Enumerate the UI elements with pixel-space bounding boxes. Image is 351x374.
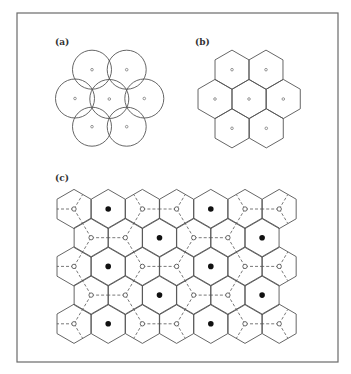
base-station-dot — [91, 125, 94, 128]
open-site-circle — [140, 322, 144, 326]
open-site-circle — [89, 236, 93, 240]
base-station-dot — [214, 98, 217, 101]
filled-site-dot — [105, 264, 111, 270]
filled-site-dot — [208, 264, 214, 270]
panel-label-a: (a) — [55, 37, 69, 47]
open-site-circle — [72, 264, 76, 268]
panel-a-overlapping-circles: (a) — [55, 37, 164, 146]
base-station-dot — [265, 127, 268, 130]
hexagon-cells — [198, 50, 300, 148]
base-station-dot — [248, 98, 251, 101]
open-site-circle — [140, 264, 144, 268]
open-site-circle — [72, 207, 76, 211]
open-site-circle — [226, 293, 230, 297]
open-site-circle — [277, 264, 281, 268]
filled-site-dot — [157, 292, 163, 298]
filled-site-dot — [208, 206, 214, 212]
open-site-circle — [174, 322, 178, 326]
open-site-circle — [123, 236, 127, 240]
figure-canvas: (a) (b) (c) — [0, 0, 351, 374]
open-site-circle — [277, 322, 281, 326]
panel-c-cell-reuse-pattern: (c) — [55, 173, 296, 343]
panel-label-b: (b) — [195, 37, 210, 47]
filled-site-dot — [157, 235, 163, 241]
panel-label-c: (c) — [55, 173, 69, 183]
base-station-dot — [108, 98, 111, 101]
open-site-circle — [123, 293, 127, 297]
base-station-dot — [125, 125, 128, 128]
base-station-dot — [231, 127, 234, 130]
base-station-dot — [231, 68, 234, 71]
open-site-circle — [243, 207, 247, 211]
panel-b-hexagonal-cells: (b) — [195, 37, 300, 148]
filled-site-dot — [208, 321, 214, 327]
open-site-circle — [192, 293, 196, 297]
open-site-circle — [174, 264, 178, 268]
open-site-circle — [140, 207, 144, 211]
filled-site-dot — [105, 206, 111, 212]
filled-site-dot — [259, 235, 265, 241]
open-site-circle — [277, 207, 281, 211]
base-station-dot — [125, 68, 128, 71]
filled-site-dot — [105, 321, 111, 327]
open-site-circle — [243, 322, 247, 326]
open-site-circle — [243, 264, 247, 268]
open-site-circle — [192, 236, 196, 240]
base-station-dot — [74, 97, 77, 100]
base-station-dot — [282, 98, 285, 101]
base-station-dot — [91, 68, 94, 71]
base-station-dot — [143, 97, 146, 100]
base-station-dot — [265, 68, 268, 71]
open-site-circle — [226, 236, 230, 240]
filled-site-dot — [259, 292, 265, 298]
open-site-circle — [174, 207, 178, 211]
open-site-circle — [72, 322, 76, 326]
cell-sites — [72, 206, 282, 326]
circle-cells — [56, 50, 164, 146]
open-site-circle — [89, 293, 93, 297]
